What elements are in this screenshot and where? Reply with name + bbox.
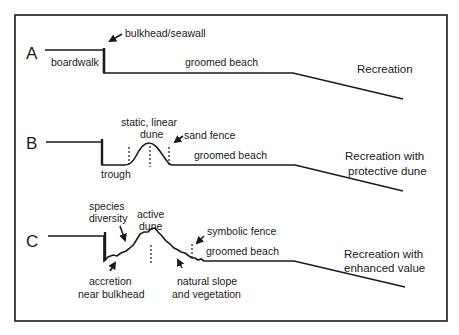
symbolic-fence-label: symbolic fence <box>207 225 277 237</box>
species-diversity-arrow-icon <box>120 226 125 240</box>
active-dune-label-line-1: active <box>137 208 165 220</box>
sand-fence-arrow-icon <box>175 136 183 142</box>
panel-b-beach-label: groomed beach <box>194 149 267 161</box>
accretion-arrow-icon <box>110 263 115 271</box>
natural-slope-label-line-1: natural slope <box>177 275 237 287</box>
accretion-label-line-2: near bulkhead <box>78 288 145 300</box>
panel-b-description-line-1: Recreation with <box>345 150 424 162</box>
symbolic-fence-arrow-icon <box>197 236 204 243</box>
beach-profile-diagram: A bulkhead/seawall boardwalk groomed bea… <box>0 0 459 335</box>
static-dune-label-line-2: dune <box>140 128 164 140</box>
panel-a-description-line-1: Recreation <box>357 63 413 75</box>
panel-c-beach-label: groomed beach <box>206 245 279 257</box>
accretion-label-line-1: accretion <box>89 275 132 287</box>
panel-b-description-line-2: protective dune <box>348 165 427 177</box>
bulkhead-label: bulkhead/seawall <box>125 27 206 39</box>
natural-slope-label-line-2: and vegetation <box>172 288 241 300</box>
panel-c-letter: C <box>26 232 38 251</box>
panel-c: C species diversity active dune symbolic… <box>26 200 425 300</box>
boardwalk-label: boardwalk <box>51 56 100 68</box>
species-diversity-label-line-1: species <box>89 200 125 212</box>
natural-slope-arrow-icon <box>178 260 182 268</box>
static-dune-label-line-1: static, linear <box>121 116 178 128</box>
panel-b: B static, linear dune sand fence groomed… <box>26 116 427 191</box>
species-diversity-label-line-2: diversity <box>89 212 128 224</box>
panel-c-description-line-1: Recreation with <box>344 248 423 260</box>
sand-fence-label: sand fence <box>184 129 236 141</box>
bulkhead-arrow-icon <box>110 34 122 41</box>
panel-a-letter: A <box>26 44 38 63</box>
panel-a: A bulkhead/seawall boardwalk groomed bea… <box>26 27 413 99</box>
panel-b-letter: B <box>26 134 37 153</box>
panel-a-beach-label: groomed beach <box>185 56 258 68</box>
active-dune-label-line-2: dune <box>139 220 163 232</box>
trough-label: trough <box>101 168 131 180</box>
panel-c-description-line-2: enhanced value <box>344 262 425 274</box>
